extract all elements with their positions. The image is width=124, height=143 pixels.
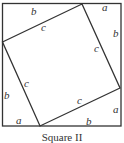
label-c-right: c <box>94 42 99 54</box>
label-top-b: b <box>31 5 37 17</box>
inner-square <box>3 4 121 126</box>
label-left-b: b <box>4 89 10 101</box>
outer-square <box>3 4 122 127</box>
label-c-left: c <box>24 77 29 89</box>
label-bottom-b: b <box>86 115 92 127</box>
label-c-bottom: c <box>77 94 82 106</box>
square-ii-diagram: b a b a b a b c c c c Square II <box>0 0 124 143</box>
label-right-b: b <box>113 27 119 39</box>
label-right-a: a <box>113 103 119 115</box>
label-bottom-a: a <box>16 114 22 126</box>
label-c-top: c <box>41 21 46 33</box>
caption: Square II <box>42 131 83 143</box>
label-top-a: a <box>102 1 108 13</box>
